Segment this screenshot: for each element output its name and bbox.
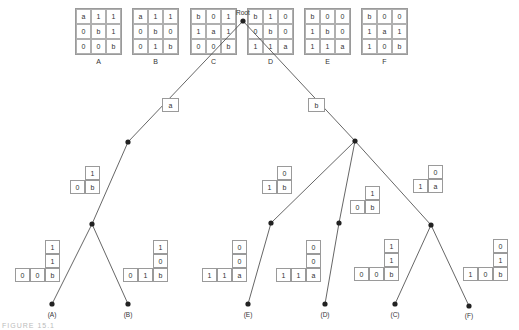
partial-cell: b <box>365 200 380 214</box>
partial-cell: 1 <box>85 166 100 180</box>
leaf-label-c: (C) <box>385 311 405 318</box>
path-cell: 0 <box>232 240 247 254</box>
partial-cell: 0 <box>350 200 365 214</box>
path-cell: 1 <box>493 253 508 267</box>
path-cell: 0 <box>30 268 45 282</box>
partial-cell: 0 <box>70 180 85 194</box>
partial-cell: 1 <box>262 180 277 194</box>
partial-cell: a <box>428 179 443 193</box>
path-cell: 0 <box>153 254 168 268</box>
leaf-label-d: (D) <box>315 311 335 318</box>
path-cell: b <box>384 267 399 281</box>
path-cell: 1 <box>384 253 399 267</box>
path-cell: 1 <box>384 239 399 253</box>
partial-cell: b <box>277 180 292 194</box>
path-cell: 0 <box>232 254 247 268</box>
leaf-label-e: (E) <box>238 311 258 318</box>
figure-caption: FIGURE 15.1 <box>2 322 55 329</box>
partial-cell: 1 <box>365 186 380 200</box>
path-cell: 0 <box>354 267 369 281</box>
edge-label-a: a <box>162 98 179 112</box>
path-cell: 1 <box>138 268 153 282</box>
path-cell: b <box>153 268 168 282</box>
path-cell: 1 <box>45 254 60 268</box>
path-cell: 0 <box>123 268 138 282</box>
path-cell: 0 <box>478 267 493 281</box>
path-cell: a <box>232 268 247 282</box>
leaf-label-b: (B) <box>118 311 138 318</box>
path-cell: 1 <box>45 240 60 254</box>
path-cell: 0 <box>306 240 321 254</box>
edge-label-b: b <box>308 98 325 112</box>
path-cell: b <box>493 267 508 281</box>
path-cell: 0 <box>493 239 508 253</box>
root-label: Root <box>236 9 250 16</box>
path-cell: 1 <box>217 268 232 282</box>
path-cell: 1 <box>291 268 306 282</box>
path-cell: 0 <box>306 254 321 268</box>
root-node <box>240 18 245 23</box>
path-cell: 1 <box>463 267 478 281</box>
path-cell: 1 <box>202 268 217 282</box>
partial-cell: b <box>85 180 100 194</box>
path-cell: 0 <box>15 268 30 282</box>
path-cell: 1 <box>153 240 168 254</box>
path-cell: 0 <box>369 267 384 281</box>
leaf-label-a: (A) <box>42 311 62 318</box>
path-cell: b <box>45 268 60 282</box>
partial-cell: 0 <box>277 166 292 180</box>
partial-cell: 1 <box>413 179 428 193</box>
partial-cell: 0 <box>428 165 443 179</box>
path-cell: 1 <box>276 268 291 282</box>
path-cell: a <box>306 268 321 282</box>
leaf-label-f: (F) <box>459 312 479 319</box>
